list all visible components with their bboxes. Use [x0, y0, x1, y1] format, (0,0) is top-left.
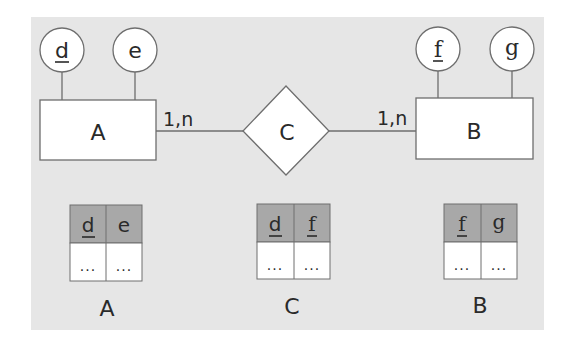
cardinality-right: 1,n	[377, 107, 407, 129]
table-a-col-d: d	[82, 213, 95, 237]
table-a-cell-2: ...	[116, 258, 132, 274]
cardinality-left: 1,n	[163, 108, 193, 130]
table-a-cell-1: ...	[80, 258, 96, 274]
table-b-cell-1: ...	[454, 257, 470, 273]
attribute-d-label: d	[55, 38, 69, 63]
er-diagram: d e A 1,n 1,n C f g B d e ... ... A	[0, 0, 562, 338]
table-b-col-g: g	[493, 210, 506, 234]
table-c-cell-1: ...	[267, 257, 283, 273]
entity-a-label: A	[90, 120, 105, 145]
relationship-c-label: C	[279, 120, 294, 145]
attribute-e-label: e	[128, 38, 142, 63]
table-c-label: C	[284, 294, 299, 319]
entity-b-label: B	[466, 119, 481, 144]
table-c-col-d: d	[269, 212, 282, 236]
table-b-label: B	[472, 293, 487, 318]
attribute-g-label: g	[505, 35, 519, 60]
table-a-label: A	[99, 296, 114, 321]
table-c-cell-2: ...	[304, 257, 320, 273]
table-a-col-e: e	[118, 213, 130, 237]
table-b-cell-2: ...	[491, 257, 507, 273]
